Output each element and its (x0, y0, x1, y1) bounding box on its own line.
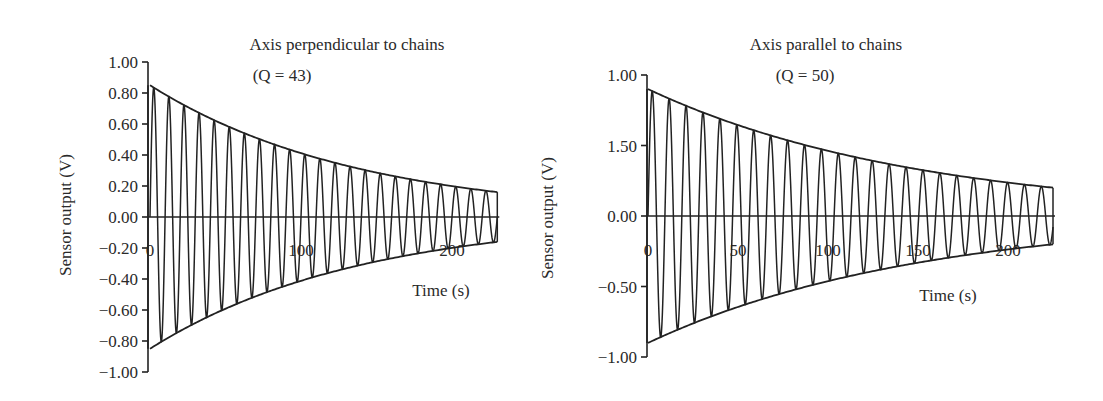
plot-area (148, 85, 499, 349)
y-tick-label: 1.00 (108, 53, 138, 72)
chart-canvas: Axis perpendicular to chains (Q = 43) Ti… (0, 0, 1103, 401)
y-tick-label: 0.80 (108, 84, 138, 103)
y-tick-label: 0.60 (108, 115, 138, 134)
x-tick-label: 150 (905, 241, 931, 260)
damped-oscillation-line (648, 91, 1053, 337)
y-tick-label: −0.60 (99, 301, 138, 320)
chart-title: Axis perpendicular to chains (250, 35, 445, 54)
x-tick-label: 0 (146, 241, 155, 260)
y-tick-label: 0.00 (108, 208, 138, 227)
y-tick-label: −0.20 (99, 239, 138, 258)
y-tick-label: −1.00 (99, 363, 138, 382)
y-axis: 1.000.800.600.400.200.00−0.20−0.40−0.60−… (99, 53, 148, 382)
y-tick-label: −0.50 (598, 278, 637, 297)
y-tick-label: 1.00 (607, 66, 637, 85)
chart-title: Axis parallel to chains (750, 35, 903, 54)
y-tick-label: 0.20 (108, 177, 138, 196)
y-tick-label: 0.40 (108, 146, 138, 165)
x-tick-label: 0 (644, 241, 653, 260)
y-axis: 1.001.500.00−0.50−1.00 (598, 66, 647, 367)
chart-subtitle: (Q = 43) (253, 66, 312, 85)
upper-envelope-line (648, 89, 1053, 188)
y-axis-label: Sensor output (V) (538, 157, 557, 279)
figure: Axis perpendicular to chains (Q = 43) Ti… (0, 0, 1103, 401)
chart-perpendicular-axis: Axis perpendicular to chains (Q = 43) Ti… (56, 35, 499, 382)
y-tick-label: 1.50 (607, 137, 637, 156)
y-tick-label: −0.80 (99, 332, 138, 351)
x-axis-label: Time (s) (919, 286, 976, 305)
y-tick-label: 0.00 (607, 207, 637, 226)
damped-oscillation-line (150, 88, 497, 342)
y-axis-label: Sensor output (V) (56, 154, 75, 276)
x-tick-label: 200 (439, 241, 465, 260)
chart-parallel-axis: Axis parallel to chains (Q = 50) Time (s… (538, 35, 1055, 367)
chart-subtitle: (Q = 50) (776, 66, 835, 85)
y-tick-label: −1.00 (598, 348, 637, 367)
plot-area (647, 89, 1055, 343)
y-tick-label: −0.40 (99, 270, 138, 289)
x-axis-label: Time (s) (412, 281, 469, 300)
